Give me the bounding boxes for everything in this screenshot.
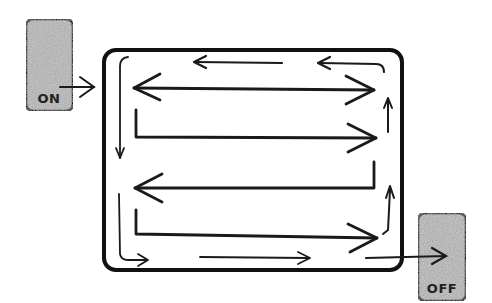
on-label: ON <box>38 91 61 106</box>
on-switch: ON <box>26 19 73 111</box>
flow-diagram: ON <box>0 0 492 303</box>
path-arrows <box>116 56 394 266</box>
off-label: OFF <box>427 281 457 296</box>
exit-arrow <box>366 248 446 264</box>
